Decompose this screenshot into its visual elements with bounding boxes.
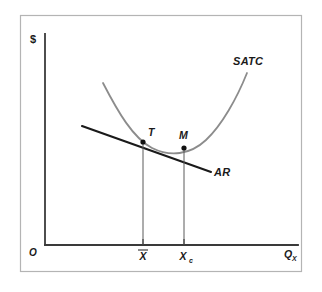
origin-label: O: [29, 247, 37, 258]
satc-curve-label: SATC: [233, 55, 264, 67]
x-tick-xc-subscript: c: [189, 257, 193, 264]
economics-chart: $ O Q X SATC AR T M X X c: [0, 0, 322, 292]
point-m-label: M: [179, 129, 188, 141]
x-axis-label: Q: [284, 248, 292, 260]
figure-frame: [21, 16, 302, 272]
x-tick-xc-label: X: [178, 250, 187, 262]
y-axis-label: $: [30, 33, 36, 45]
point-t-marker: [140, 139, 145, 144]
ar-line-label: AR: [213, 166, 231, 178]
point-m-marker: [181, 145, 186, 150]
x-tick-xbar-label: X: [138, 250, 147, 262]
figure-container: $ O Q X SATC AR T M X X c: [0, 0, 322, 292]
